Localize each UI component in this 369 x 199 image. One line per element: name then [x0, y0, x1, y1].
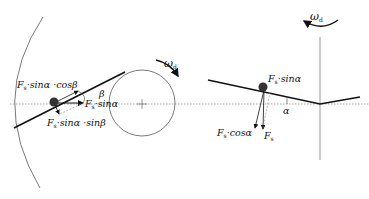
- particle-left: [50, 98, 59, 107]
- label-sin-alpha-left: Fs·sinα: [85, 99, 118, 110]
- label-omega-right: ωd: [310, 11, 323, 23]
- label-sin-alpha-cos-beta: Fs·sinα ·cosβ: [17, 80, 78, 91]
- label-sub: s: [271, 135, 274, 142]
- label-f: F: [264, 130, 271, 141]
- label-rest: ·sinα: [278, 73, 301, 84]
- label-f: F: [85, 98, 92, 109]
- alpha-symbol: α: [283, 105, 289, 116]
- label-alpha: α: [283, 106, 289, 116]
- beta-symbol: β: [99, 88, 105, 99]
- label-f: F: [268, 73, 275, 84]
- label-fs: Fs: [264, 131, 274, 142]
- label-f: F: [17, 79, 24, 90]
- label-rest: ·cosα: [227, 127, 252, 138]
- label-rest: ·sinα ·cosβ: [27, 79, 78, 90]
- arrow-cos-alpha: [255, 90, 264, 128]
- drum-arc: [15, 17, 43, 188]
- diagram-canvas: [0, 0, 369, 199]
- omega-sub: d: [319, 16, 323, 23]
- particle-right: [259, 83, 268, 92]
- dashed-proj: [60, 103, 83, 114]
- label-cos-alpha: Fs·cosα: [217, 128, 252, 139]
- label-sin-alpha-right: Fs·sinα: [268, 74, 301, 85]
- label-f: F: [47, 117, 54, 128]
- label-rest: ·sinα: [95, 98, 118, 109]
- label-sin-alpha-sin-beta: Fs·sinα ·sinβ: [47, 118, 106, 129]
- omega-symbol: ω: [164, 57, 173, 70]
- label-omega-left: ωd: [164, 58, 177, 70]
- label-rest: ·sinα ·sinβ: [57, 117, 106, 128]
- right-view: [208, 20, 360, 160]
- label-f: F: [217, 127, 224, 138]
- omega-sub: d: [173, 63, 177, 70]
- omega-symbol: ω: [310, 10, 319, 23]
- label-beta: β: [99, 89, 105, 99]
